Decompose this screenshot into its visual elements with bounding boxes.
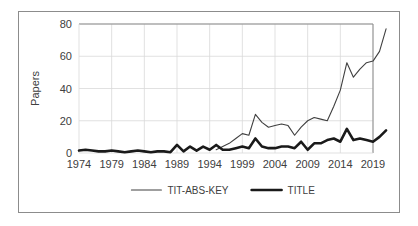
legend-label-tit-abs-key: TIT-ABS-KEY — [167, 185, 228, 196]
figure-container: 020406080 197419791984198919941999200420… — [0, 0, 418, 226]
y-tick-labels-group: 020406080 — [60, 18, 72, 159]
x-tick-label: 2004 — [263, 158, 287, 170]
x-tick-label: 2019 — [361, 158, 385, 170]
x-tick-label: 1984 — [132, 158, 156, 170]
y-tick-label: 20 — [60, 115, 72, 127]
y-axis-title: Papers — [29, 71, 41, 106]
y-tick-label: 40 — [60, 83, 72, 95]
x-tick-label: 1989 — [165, 158, 189, 170]
x-tick-label: 1974 — [67, 158, 91, 170]
x-tick-label: 2009 — [295, 158, 319, 170]
y-axis-title-group: Papers — [29, 71, 41, 106]
chart-border-frame: 020406080 197419791984198919941999200420… — [18, 11, 400, 213]
y-tick-label: 80 — [60, 18, 72, 30]
x-tick-label: 1979 — [99, 158, 123, 170]
x-tick-labels-group: 1974197919841989199419992004200920142019 — [67, 158, 385, 170]
chart-legend: TIT-ABS-KEYTITLE — [131, 185, 315, 196]
line-chart: 020406080 197419791984198919941999200420… — [19, 12, 399, 212]
legend-label-title: TITLE — [288, 185, 316, 196]
x-tick-label: 1994 — [197, 158, 221, 170]
y-tick-label: 60 — [60, 50, 72, 62]
series-line-tit-abs-key — [216, 29, 386, 150]
gridlines-group — [79, 24, 373, 153]
x-tick-label: 2014 — [328, 158, 352, 170]
x-tick-label: 1999 — [230, 158, 254, 170]
